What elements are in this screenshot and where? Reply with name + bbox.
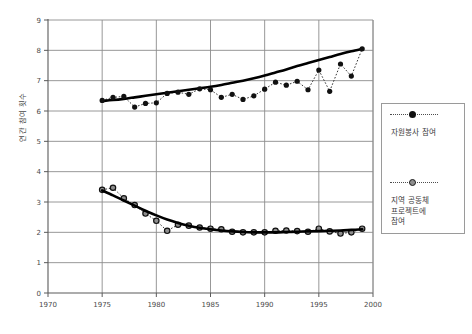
x-tick-label: 1980: [147, 301, 165, 309]
legend-label-volunteering: 자원봉사 참여: [382, 128, 466, 139]
data-point-marker: [197, 86, 202, 91]
data-point-marker: [132, 104, 137, 109]
data-point-marker: [230, 92, 235, 97]
y-tick-label: 6: [37, 108, 42, 116]
data-point-marker: [284, 83, 289, 88]
y-tick-label: 8: [37, 47, 41, 55]
x-tick-label: 1975: [93, 301, 111, 309]
y-tick-label: 9: [37, 17, 41, 25]
data-point-marker: [154, 218, 159, 223]
data-point-marker: [154, 100, 159, 105]
data-point-marker: [273, 80, 278, 85]
data-point-marker: [164, 228, 169, 233]
axes: [44, 19, 373, 297]
data-point-marker: [262, 87, 267, 92]
chart-figure: 01234567891970197519801985199019952000 연…: [0, 0, 472, 334]
legend-label-line-1: 지역 공동체: [391, 196, 466, 207]
y-tick-label: 1: [37, 259, 41, 267]
hollow-circle-icon: [409, 179, 416, 186]
data-point-marker: [165, 91, 170, 96]
x-tick-label: 1985: [202, 301, 220, 309]
data-point-marker: [327, 89, 332, 94]
data-point-marker: [295, 79, 300, 84]
legend-label-community-project: 지역 공동체 프로젝트에 참여: [382, 196, 466, 228]
legend-label-line-2: 프로젝트에: [391, 207, 466, 218]
y-tick-label: 3: [37, 199, 41, 207]
legend-item-community-project[interactable]: 지역 공동체 프로젝트에 참여: [382, 176, 466, 228]
data-point-marker: [175, 90, 180, 95]
x-tick-label: 1995: [310, 301, 328, 309]
series-dotted-connector: [102, 188, 362, 234]
data-point-marker: [360, 46, 365, 51]
y-tick-label: 7: [37, 77, 41, 85]
y-tick-label: 5: [37, 138, 41, 146]
data-point-marker: [240, 97, 245, 102]
grid-lines: [48, 20, 373, 293]
y-tick-label: 2: [37, 229, 41, 237]
x-tick-label: 1970: [39, 301, 57, 309]
y-tick-label: 4: [37, 168, 42, 176]
legend-label-line-3: 참여: [391, 217, 466, 228]
data-point-marker: [110, 95, 115, 100]
chart-legend: 자원봉사 참여 지역 공동체 프로젝트에 참여: [381, 103, 465, 234]
y-tick-label: 0: [37, 290, 41, 298]
legend-marker-filled-circle-icon: [382, 108, 466, 122]
data-point-marker: [100, 98, 105, 103]
series-1: [99, 185, 364, 236]
tick-labels: 01234567891970197519801985199019952000: [37, 17, 382, 309]
data-point-marker: [186, 92, 191, 97]
data-point-marker: [208, 87, 213, 92]
data-point-marker: [143, 101, 148, 106]
data-point-marker: [349, 74, 354, 79]
series-2: [102, 190, 362, 232]
data-point-marker: [110, 185, 115, 190]
x-tick-label: 1990: [256, 301, 274, 309]
series-0: [100, 46, 365, 109]
data-point-marker: [219, 95, 224, 100]
data-point-marker: [305, 87, 310, 92]
legend-item-volunteering[interactable]: 자원봉사 참여: [382, 108, 466, 139]
x-tick-label: 2000: [364, 301, 382, 309]
data-point-marker: [338, 61, 343, 66]
data-point-marker: [316, 67, 321, 72]
data-point-marker: [121, 94, 126, 99]
filled-circle-icon: [409, 111, 416, 118]
legend-marker-hollow-circle-icon: [382, 176, 466, 190]
data-point-marker: [251, 93, 256, 98]
series-trend-curve: [102, 190, 362, 232]
